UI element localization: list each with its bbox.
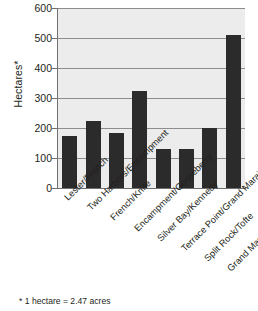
y-tick-mark — [51, 98, 57, 99]
x-axis-tick-labels: Lester/FrenchTwo Harbors/EncampmentFrenc… — [0, 188, 258, 288]
y-tick-label: 500 — [12, 33, 52, 43]
y-tick-label: 400 — [12, 63, 52, 73]
y-tick-mark — [51, 68, 57, 69]
y-tick-label: 600 — [12, 3, 52, 13]
bar-slot — [156, 8, 171, 188]
y-axis-title: Hectares* — [12, 44, 24, 124]
bar-slot — [109, 8, 124, 188]
bar-chart-figure: Hectares* 0100200300400500600 Lester/Fre… — [0, 0, 258, 311]
bar — [156, 149, 171, 188]
y-tick-label: 100 — [12, 153, 52, 163]
bar — [62, 136, 77, 188]
y-tick-label: 300 — [12, 93, 52, 103]
y-tick-mark — [51, 128, 57, 129]
bar-slot — [62, 8, 77, 188]
y-tick-mark — [51, 38, 57, 39]
y-tick-mark — [51, 158, 57, 159]
footnote: * 1 hectare = 2.47 acres — [19, 296, 111, 306]
bar-series — [58, 8, 245, 188]
bar-slot — [226, 8, 241, 188]
bar — [226, 35, 241, 188]
x-tick-label: Silver Bay/Kennedy — [156, 179, 220, 243]
y-tick-mark — [51, 8, 57, 9]
bar — [132, 91, 147, 188]
bar-slot — [179, 8, 194, 188]
y-tick-label: 200 — [12, 123, 52, 133]
